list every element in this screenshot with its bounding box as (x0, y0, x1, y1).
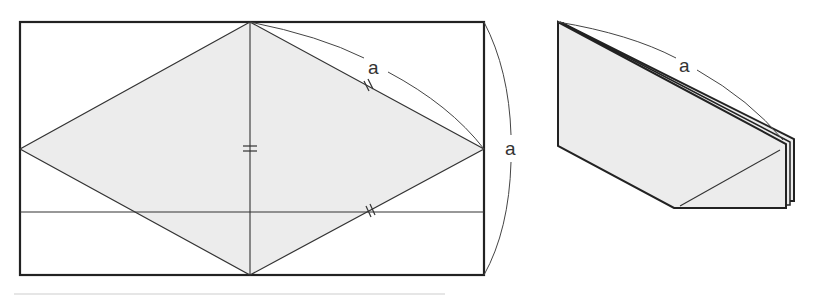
label-a-right: a (505, 138, 516, 159)
rhombus-shaded (20, 22, 484, 275)
origami-diagram: a a a (0, 0, 815, 298)
left-figure: a a (20, 22, 516, 275)
label-a-right-figure: a (679, 55, 690, 76)
dimension-arc-right-2 (484, 162, 511, 275)
dimension-arc-right (484, 22, 511, 135)
label-a-top: a (368, 57, 379, 78)
right-figure: a (558, 22, 794, 208)
paper-front-layer (558, 22, 786, 208)
